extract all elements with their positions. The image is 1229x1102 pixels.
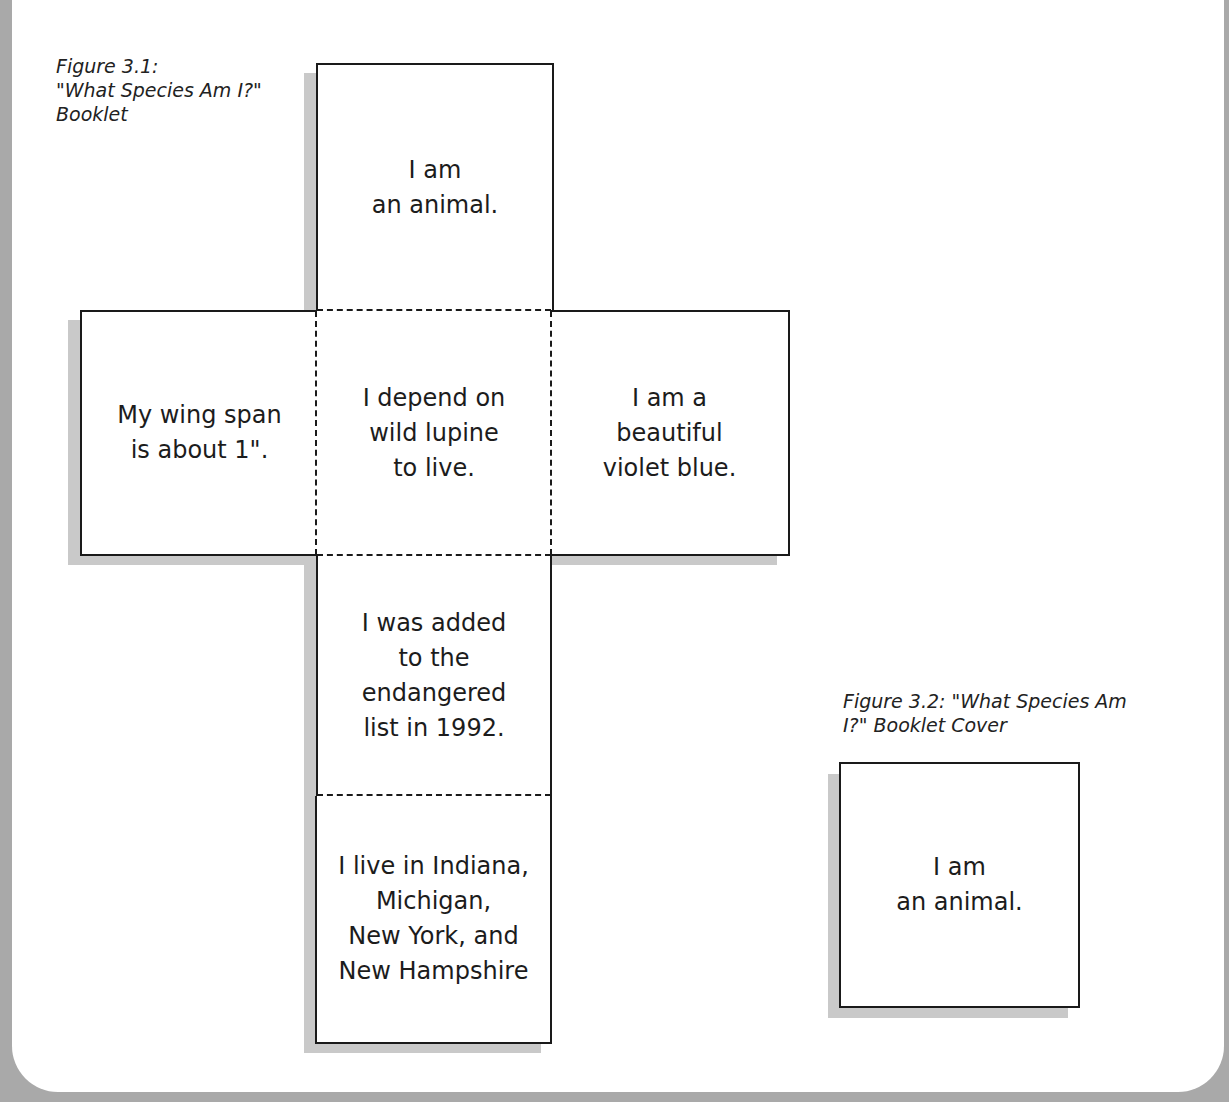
panel-top: I am an animal. <box>316 63 554 311</box>
caption-line: "What Species Am I?" <box>56 78 262 102</box>
fold-line-top <box>317 309 551 311</box>
fold-line-right <box>550 311 552 555</box>
panel-bottom: I live in Indiana, Michigan, New York, a… <box>315 796 552 1044</box>
panel-center: I depend on wild lupine to live. <box>317 311 551 555</box>
document-page: Figure 3.1: "What Species Am I?" Booklet… <box>12 0 1224 1092</box>
fold-line-bottom <box>317 794 551 796</box>
panel-lower: I was added to the endangered list in 19… <box>316 555 552 796</box>
caption-line: Figure 3.2: "What Species Am <box>843 689 1127 713</box>
caption-line: I?" Booklet Cover <box>843 713 1127 737</box>
fold-line-left <box>315 311 317 555</box>
figure-3-1-caption: Figure 3.1: "What Species Am I?" Booklet <box>56 54 262 126</box>
panel-left: My wing span is about 1". <box>80 310 317 556</box>
caption-line: Booklet <box>56 102 262 126</box>
fold-line-middle <box>317 554 551 556</box>
panel-right: I am a beautiful violet blue. <box>551 310 790 556</box>
figure-3-2-caption: Figure 3.2: "What Species Am I?" Booklet… <box>843 689 1127 737</box>
caption-line: Figure 3.1: <box>56 54 262 78</box>
cover-panel: I am an animal. <box>839 762 1080 1008</box>
